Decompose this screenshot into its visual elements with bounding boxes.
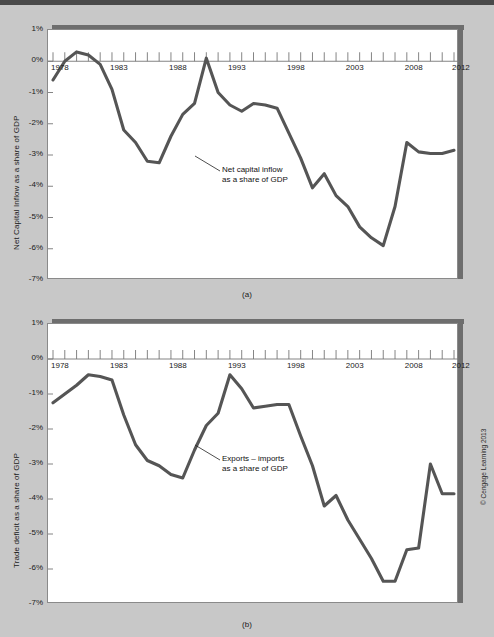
y-axis-tick-label: 0% bbox=[16, 55, 43, 64]
y-axis-tick-label: -7% bbox=[16, 274, 43, 283]
x-axis-tick-label: 1978 bbox=[51, 361, 69, 370]
x-axis-tick-label: 1983 bbox=[110, 361, 128, 370]
x-axis-tick-label: 1998 bbox=[287, 63, 305, 72]
annotation-b-line2: as a share of GDP bbox=[222, 464, 288, 474]
x-axis-tick-label: 2012 bbox=[452, 361, 470, 370]
y-axis-tick-label: -3% bbox=[16, 149, 43, 158]
x-axis-tick-label: 1998 bbox=[287, 361, 305, 370]
chart-panel-a: Net Capital Inflow as a share of GDP Net… bbox=[0, 5, 494, 310]
data-series-line bbox=[53, 52, 454, 246]
y-axis-label-b: Trade deficit as a share of GDP bbox=[12, 453, 21, 568]
y-axis-tick-label: -6% bbox=[16, 243, 43, 252]
y-axis-tick-label: -6% bbox=[16, 563, 43, 572]
x-axis-tick-label: 1993 bbox=[228, 361, 246, 370]
y-axis-tick-label: -5% bbox=[16, 212, 43, 221]
subcaption-a: (a) bbox=[0, 290, 494, 299]
chart-panel-b: Trade deficit as a share of GDP Exports … bbox=[0, 310, 494, 637]
x-axis-tick-label: 2003 bbox=[346, 63, 364, 72]
copyright-credit: © Cengage Learning 2013 bbox=[480, 429, 487, 505]
x-axis-tick-label: 1988 bbox=[169, 63, 187, 72]
annotation-a: Net capital inflow as a share of GDP bbox=[222, 165, 288, 185]
x-axis-tick-label: 1983 bbox=[110, 63, 128, 72]
annotation-leader-line bbox=[195, 156, 220, 171]
annotation-b-line1: Exports – imports bbox=[222, 454, 288, 464]
y-axis-tick-label: -1% bbox=[16, 87, 43, 96]
plot-area-a bbox=[47, 29, 458, 279]
x-axis-tick-label: 2008 bbox=[405, 63, 423, 72]
y-axis-tick-label: 1% bbox=[16, 318, 43, 327]
y-axis-tick-label: -4% bbox=[16, 180, 43, 189]
y-axis-tick-label: 1% bbox=[16, 24, 43, 33]
y-axis-tick-label: -5% bbox=[16, 528, 43, 537]
y-axis-tick-label: -1% bbox=[16, 388, 43, 397]
y-axis-tick-label: -7% bbox=[16, 598, 43, 607]
x-axis-tick-label: 1978 bbox=[51, 63, 69, 72]
x-axis-tick-label: 2008 bbox=[405, 361, 423, 370]
x-axis-tick-label: 2012 bbox=[452, 63, 470, 72]
y-axis-tick-label: 0% bbox=[16, 353, 43, 362]
y-axis-tick-label: -2% bbox=[16, 423, 43, 432]
annotation-a-line1: Net capital inflow bbox=[222, 165, 288, 175]
y-axis-tick-label: -3% bbox=[16, 458, 43, 467]
y-axis-tick-label: -2% bbox=[16, 118, 43, 127]
annotation-leader-line bbox=[195, 445, 220, 460]
x-axis-tick-label: 1988 bbox=[169, 361, 187, 370]
annotation-a-line2: as a share of GDP bbox=[222, 175, 288, 185]
subcaption-b: (b) bbox=[0, 620, 494, 629]
data-series-line bbox=[53, 375, 454, 582]
x-axis-tick-label: 1993 bbox=[228, 63, 246, 72]
y-axis-tick-label: -4% bbox=[16, 493, 43, 502]
figure-page: Net Capital Inflow as a share of GDP Net… bbox=[0, 0, 494, 637]
x-axis-tick-label: 2003 bbox=[346, 361, 364, 370]
annotation-b: Exports – imports as a share of GDP bbox=[222, 454, 288, 474]
